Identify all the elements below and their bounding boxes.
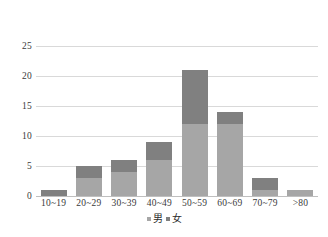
x-axis-label: 50~59 xyxy=(177,198,212,208)
y-axis-label: 20 xyxy=(22,71,32,81)
x-axis-label: 30~39 xyxy=(107,198,142,208)
bar-segment[interactable] xyxy=(217,112,243,124)
bar-segment[interactable] xyxy=(182,70,208,124)
bar-segment[interactable] xyxy=(252,190,278,196)
bar-segment[interactable] xyxy=(76,178,102,196)
bar-slot xyxy=(107,46,142,196)
bar-slot xyxy=(248,46,283,196)
legend-swatch-icon xyxy=(166,217,170,221)
x-axis-label: >80 xyxy=(283,198,318,208)
bar-slot xyxy=(142,46,177,196)
x-axis-label: 60~69 xyxy=(212,198,247,208)
bar-segment[interactable] xyxy=(287,190,313,196)
bar-slot xyxy=(36,46,71,196)
bar-segment[interactable] xyxy=(76,166,102,178)
bar-slot xyxy=(177,46,212,196)
bar-segment[interactable] xyxy=(41,190,67,196)
bar-segment[interactable] xyxy=(111,160,137,172)
x-axis-tick-labels: 10~1920~2930~3940~4950~5960~6970~79>80 xyxy=(36,198,318,214)
stacked-bar-chart: 0510152025 10~1920~2930~3940~4950~5960~6… xyxy=(0,0,328,237)
bar-stack[interactable] xyxy=(111,160,137,196)
legend-swatch-icon xyxy=(147,217,151,221)
bar-stack[interactable] xyxy=(182,70,208,196)
bar-slot xyxy=(212,46,247,196)
bars-layer xyxy=(36,46,318,196)
y-axis-label: 0 xyxy=(27,191,32,201)
y-axis-label: 5 xyxy=(27,161,32,171)
bar-slot xyxy=(283,46,318,196)
bar-stack[interactable] xyxy=(146,142,172,196)
bar-segment[interactable] xyxy=(146,160,172,196)
legend-item[interactable]: 男 xyxy=(147,214,163,224)
x-axis-label: 40~49 xyxy=(142,198,177,208)
bar-slot xyxy=(71,46,106,196)
bar-stack[interactable] xyxy=(217,112,243,196)
bar-segment[interactable] xyxy=(111,172,137,196)
legend-label: 女 xyxy=(172,214,182,224)
bar-stack[interactable] xyxy=(76,166,102,196)
y-axis-label: 10 xyxy=(22,131,32,141)
legend-item[interactable]: 女 xyxy=(166,214,182,224)
bar-segment[interactable] xyxy=(252,178,278,190)
x-axis-label: 10~19 xyxy=(36,198,71,208)
bar-segment[interactable] xyxy=(146,142,172,160)
x-axis-label: 20~29 xyxy=(71,198,106,208)
bar-segment[interactable] xyxy=(217,124,243,196)
axis-baseline xyxy=(36,196,318,197)
chart-legend: 男女 xyxy=(0,214,328,224)
bar-stack[interactable] xyxy=(252,178,278,196)
bar-segment[interactable] xyxy=(182,124,208,196)
bar-stack[interactable] xyxy=(287,190,313,196)
y-axis-label: 25 xyxy=(22,41,32,51)
bar-stack[interactable] xyxy=(41,190,67,196)
y-axis-label: 15 xyxy=(22,101,32,111)
y-axis-tick-labels: 0510152025 xyxy=(0,46,32,196)
x-axis-label: 70~79 xyxy=(248,198,283,208)
legend-label: 男 xyxy=(153,214,163,224)
